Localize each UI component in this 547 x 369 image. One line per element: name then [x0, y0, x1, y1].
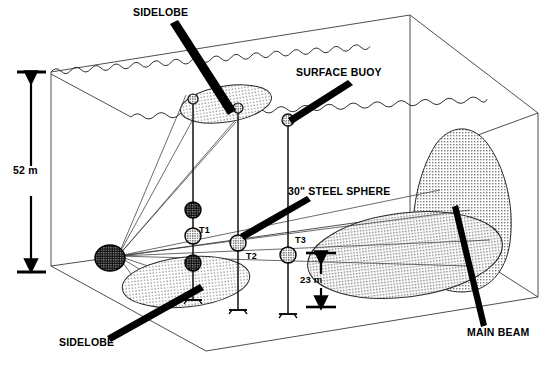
surface-edge-left	[51, 74, 131, 117]
leader-surface-buoy	[288, 80, 353, 124]
label-target-t2: T2	[246, 252, 257, 261]
label-depth-52m: 52 m	[13, 165, 38, 176]
leader-steel-sphere	[240, 196, 311, 240]
t3-sphere-target	[280, 247, 296, 263]
box-edge-top-right-back	[410, 15, 538, 113]
box-edge-floor-front	[206, 297, 538, 351]
label-target-t3: T3	[295, 236, 306, 245]
t1-sphere-upper	[185, 202, 201, 218]
label-sidelobe-bottom: SIDELOBE	[59, 337, 114, 348]
figure-canvas: SIDELOBE SURFACE BUOY 30" STEEL SPHERE M…	[0, 0, 547, 369]
t3-anchor	[279, 314, 297, 318]
t1-sphere-lower	[185, 255, 201, 271]
label-sidelobe-top: SIDELOBE	[133, 7, 188, 18]
box-edge-top-left-back	[51, 15, 410, 72]
ray-up-left	[118, 95, 186, 256]
t1-surface-float	[188, 94, 198, 104]
acoustic-source-sphere	[95, 245, 125, 271]
label-height-23m: 23 m	[300, 275, 322, 285]
water-surface-waves	[51, 45, 487, 119]
t2-anchor	[229, 310, 247, 314]
label-surface-buoy: SURFACE BUOY	[296, 67, 382, 78]
diagram-svg	[0, 0, 547, 369]
label-target-t1: T1	[199, 226, 210, 235]
ray-up-inner	[118, 122, 236, 256]
label-steel-sphere: 30" STEEL SPHERE	[288, 186, 391, 197]
label-main-beam: MAIN BEAM	[467, 327, 529, 338]
